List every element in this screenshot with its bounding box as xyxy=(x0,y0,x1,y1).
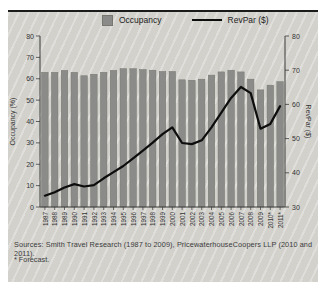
occupancy-bar xyxy=(100,72,107,207)
x-tick-label: 1989 xyxy=(61,212,68,227)
x-tick-label: 2004 xyxy=(208,212,215,227)
x-tick-label: 1995 xyxy=(120,212,127,227)
occupancy-bar xyxy=(110,70,117,207)
x-tick-label: 2009 xyxy=(257,212,264,227)
right-tick-label: 70 xyxy=(292,67,300,74)
left-tick-label: 60 xyxy=(26,75,34,82)
x-tick-label: 2000 xyxy=(169,212,176,227)
occupancy-bar xyxy=(42,72,49,207)
sources-text: Sources: Smith Travel Research (1987 to … xyxy=(14,240,316,258)
x-tick-label: 2008 xyxy=(247,212,254,227)
left-tick-label: 50 xyxy=(26,97,34,104)
x-tick-label: 2011* xyxy=(277,211,284,228)
right-tick-label: 80 xyxy=(292,33,300,40)
x-tick-label: 2010* xyxy=(267,211,274,228)
right-tick-label: 50 xyxy=(292,135,300,142)
legend-item-occupancy: Occupancy xyxy=(102,15,162,26)
x-tick-label: 2005 xyxy=(218,212,225,227)
occupancy-bar xyxy=(91,74,98,207)
occupancy-bar xyxy=(120,69,127,207)
x-tick-label: 2003 xyxy=(198,212,205,227)
right-tick-label: 30 xyxy=(292,204,300,211)
left-tick-label: 70 xyxy=(26,54,34,61)
left-axis-title: Occupancy (%) xyxy=(9,98,17,146)
occupancy-bar xyxy=(198,79,205,207)
legend-occupancy-label: Occupancy xyxy=(119,15,162,25)
occupancy-bar xyxy=(169,71,176,207)
right-tick-label: 40 xyxy=(292,169,300,176)
left-tick-label: 10 xyxy=(26,182,34,189)
legend: Occupancy RevPar ($) xyxy=(102,13,269,27)
left-tick-label: 0 xyxy=(30,204,34,211)
occupancy-bar xyxy=(149,70,156,207)
occupancy-bar xyxy=(238,72,245,207)
left-tick-label: 20 xyxy=(26,161,34,168)
x-tick-label: 2002 xyxy=(189,212,196,227)
x-tick-label: 1987 xyxy=(42,212,49,227)
x-tick-label: 1988 xyxy=(51,212,58,227)
x-tick-label: 2001 xyxy=(179,212,186,227)
x-tick-label: 1994 xyxy=(110,212,117,227)
occupancy-bar xyxy=(159,71,166,207)
left-tick-label: 40 xyxy=(26,118,34,125)
x-tick-label: 2006 xyxy=(228,212,235,227)
forecast-note: * Forecast. xyxy=(14,255,49,264)
legend-item-revpar: RevPar ($) xyxy=(192,15,269,25)
x-tick-label: 1998 xyxy=(149,212,156,227)
x-tick-label: 1990 xyxy=(71,212,78,227)
occupancy-bar xyxy=(228,70,235,207)
occupancy-bar xyxy=(257,90,264,207)
legend-revpar-label: RevPar ($) xyxy=(228,15,269,25)
occupancy-bar xyxy=(130,69,137,207)
occupancy-bar-swatch-icon xyxy=(102,15,113,26)
x-tick-label: 1999 xyxy=(159,212,166,227)
occupancy-bar xyxy=(208,75,215,207)
x-tick-label: 1992 xyxy=(91,212,98,227)
left-tick-label: 80 xyxy=(26,33,34,40)
x-tick-label: 1993 xyxy=(100,212,107,227)
occupancy-bar xyxy=(51,72,58,207)
x-tick-label: 1996 xyxy=(130,212,137,227)
left-tick-label: 30 xyxy=(26,139,34,146)
revpar-line-swatch-icon xyxy=(192,19,222,22)
right-tick-label: 60 xyxy=(292,101,300,108)
occupancy-bar xyxy=(71,72,78,207)
occupancy-bar xyxy=(140,70,147,207)
x-tick-label: 1997 xyxy=(140,212,147,227)
right-axis-title: RevPar ($) xyxy=(304,105,312,139)
x-tick-label: 2007 xyxy=(238,212,245,227)
occupancy-bar xyxy=(267,85,274,207)
occupancy-bar xyxy=(218,72,225,207)
occupancy-bar xyxy=(277,82,284,207)
x-tick-label: 1991 xyxy=(81,212,88,227)
